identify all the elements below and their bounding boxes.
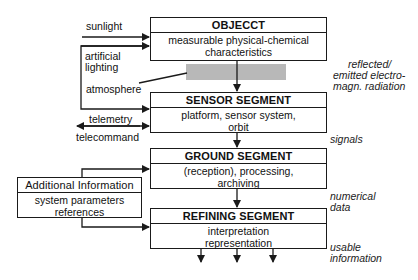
ground-body-line-1: (reception), processing,: [151, 165, 326, 177]
refining-segment-body: interpretation representation: [151, 224, 326, 249]
sensor-body-line-2: orbit: [151, 121, 326, 133]
ground-segment-body: (reception), processing, archiving: [151, 164, 326, 189]
sensor-body-line-1: platform, sensor system,: [151, 109, 326, 121]
signals-label: signals: [330, 133, 363, 145]
telecommand-label: telecommand: [76, 131, 139, 143]
atmosphere-label: atmosphere: [86, 83, 141, 95]
object-title: OBJECCT: [151, 18, 326, 33]
additional-info-line-1: system parameters: [18, 194, 141, 206]
refining-segment-box: REFINING SEGMENT interpretation represen…: [150, 208, 327, 249]
sunlight-label: sunlight: [86, 20, 122, 32]
refining-segment-title: REFINING SEGMENT: [151, 209, 326, 224]
object-box: OBJECCT measurable physical-chemical cha…: [150, 17, 327, 61]
additional-info-body: system parameters references: [18, 193, 141, 218]
telemetry-label: telemetry: [89, 113, 132, 125]
sensor-segment-body: platform, sensor system, orbit: [151, 108, 326, 133]
ground-segment-box: GROUND SEGMENT (reception), processing, …: [150, 148, 327, 189]
object-body: measurable physical-chemical characteris…: [151, 33, 326, 58]
ground-segment-title: GROUND SEGMENT: [151, 149, 326, 164]
additional-info-title: Additional Information: [18, 178, 141, 193]
usable-information-label-line-2: information: [330, 252, 382, 264]
refining-body-line-1: interpretation: [151, 225, 326, 237]
additional-info-line-2: references: [18, 206, 141, 218]
sensor-segment-title: SENSOR SEGMENT: [151, 93, 326, 108]
additional-info-box: Additional Information system parameters…: [17, 177, 142, 218]
ground-body-line-2: archiving: [151, 177, 326, 189]
object-body-line-1: measurable physical-chemical: [151, 34, 326, 46]
object-body-line-2: characteristics: [151, 46, 326, 58]
lighting-label: lighting: [85, 61, 118, 73]
sensor-segment-box: SENSOR SEGMENT platform, sensor system, …: [150, 92, 327, 133]
refining-body-line-2: representation: [151, 237, 326, 249]
radiation-label-line-3: magn. radiation: [333, 80, 405, 92]
numerical-data-label-line-2: data: [330, 201, 350, 213]
atmosphere-band: [186, 64, 286, 80]
